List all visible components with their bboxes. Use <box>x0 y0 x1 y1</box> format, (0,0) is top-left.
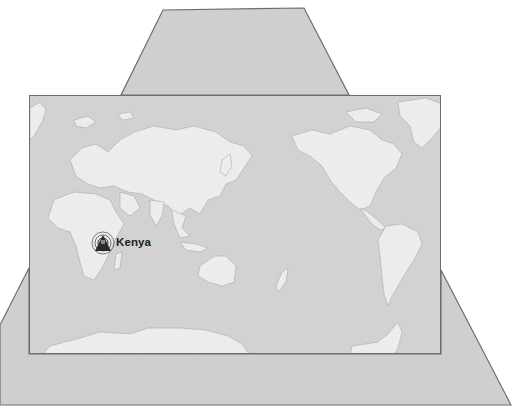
north-america <box>292 126 402 210</box>
south-america <box>378 224 422 306</box>
antarctica-west <box>42 328 250 354</box>
map-scene: Kenya <box>0 0 512 414</box>
madagascar <box>114 252 122 270</box>
arabia <box>120 192 140 216</box>
australia <box>198 256 236 286</box>
new-zealand <box>276 268 288 292</box>
arctic-archipelago <box>346 108 382 122</box>
world-map[interactable] <box>29 95 441 354</box>
greenland-west <box>30 102 46 140</box>
india <box>150 200 164 226</box>
top-panel <box>121 8 349 95</box>
indonesia <box>180 242 208 252</box>
world-map-landmasses <box>30 96 441 354</box>
greenland <box>398 98 441 148</box>
radio-tower-icon[interactable] <box>91 231 115 255</box>
arctic-islands <box>74 116 96 128</box>
southeast-asia <box>172 210 190 238</box>
central-america <box>360 208 386 230</box>
antarctica-east <box>350 322 402 354</box>
svalbard <box>118 112 134 120</box>
marker-label-kenya[interactable]: Kenya <box>116 235 151 249</box>
